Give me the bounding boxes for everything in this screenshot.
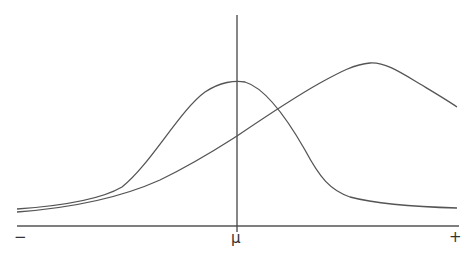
diagram-canvas <box>0 0 474 257</box>
axis-label-negative: − <box>14 230 27 245</box>
axis-label-mean: μ <box>231 231 241 246</box>
axis-label-positive: + <box>449 230 462 245</box>
